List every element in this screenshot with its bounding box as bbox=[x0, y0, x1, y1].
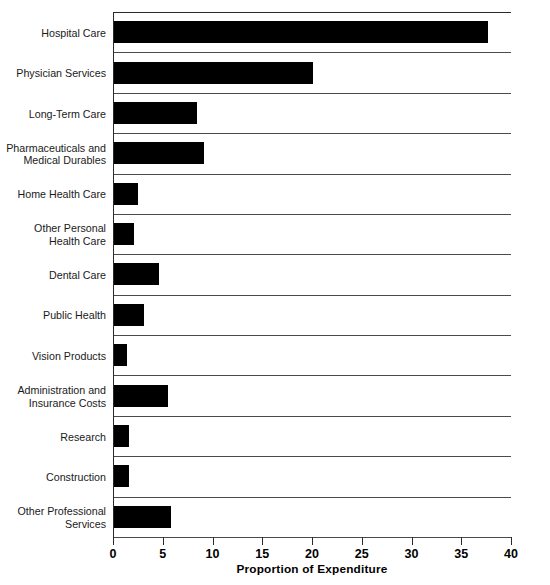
bar bbox=[114, 183, 138, 205]
category-label: Research bbox=[0, 417, 106, 457]
bar bbox=[114, 102, 197, 124]
category-label: Home Health Care bbox=[0, 175, 106, 215]
x-axis-tick bbox=[412, 537, 413, 545]
category-label: Physician Services bbox=[0, 53, 106, 93]
bar bbox=[114, 425, 129, 447]
x-axis-tick bbox=[262, 537, 263, 545]
x-axis-tick-label: 40 bbox=[504, 547, 518, 561]
bar bbox=[114, 344, 127, 366]
x-axis-tick-label: 0 bbox=[110, 547, 117, 561]
category-label: Vision Products bbox=[0, 336, 106, 376]
chart-band: Home Health Care bbox=[114, 175, 511, 215]
chart-band: Other Professional Services bbox=[114, 498, 511, 538]
bar bbox=[114, 263, 159, 285]
category-label: Dental Care bbox=[0, 255, 106, 295]
x-axis-tick-label: 30 bbox=[405, 547, 419, 561]
chart-band: Long-Term Care bbox=[114, 94, 511, 134]
chart-band: Pharmaceuticals and Medical Durables bbox=[114, 134, 511, 174]
bar bbox=[114, 506, 171, 528]
category-label: Construction bbox=[0, 457, 106, 497]
plot-area: Hospital CarePhysician ServicesLong-Term… bbox=[113, 12, 511, 537]
x-axis-tick bbox=[362, 537, 363, 545]
x-axis-tick-label: 35 bbox=[454, 547, 468, 561]
category-label: Hospital Care bbox=[0, 13, 106, 53]
category-label: Public Health bbox=[0, 296, 106, 336]
chart-band: Administration and Insurance Costs bbox=[114, 376, 511, 416]
bar bbox=[114, 304, 144, 326]
bar bbox=[114, 465, 129, 487]
bar-chart-figure: Hospital CarePhysician ServicesLong-Term… bbox=[0, 0, 550, 585]
x-axis-tick bbox=[163, 537, 164, 545]
category-label: Administration and Insurance Costs bbox=[0, 376, 106, 416]
bar bbox=[114, 223, 134, 245]
x-axis-tick-label: 25 bbox=[355, 547, 369, 561]
bar bbox=[114, 142, 204, 164]
chart-band: Construction bbox=[114, 457, 511, 497]
bar bbox=[114, 21, 488, 43]
x-axis-tick bbox=[213, 537, 214, 545]
bar bbox=[114, 385, 168, 407]
x-axis-tick-label: 5 bbox=[159, 547, 166, 561]
x-axis-tick-label: 20 bbox=[305, 547, 319, 561]
x-axis-tick bbox=[511, 537, 512, 545]
bar bbox=[114, 62, 313, 84]
chart-band: Public Health bbox=[114, 296, 511, 336]
x-axis: 0510152025303540 bbox=[113, 537, 511, 538]
x-axis-tick bbox=[312, 537, 313, 545]
chart-band: Research bbox=[114, 417, 511, 457]
category-label: Long-Term Care bbox=[0, 94, 106, 134]
chart-band: Physician Services bbox=[114, 53, 511, 93]
x-axis-title: Proportion of Expenditure bbox=[113, 562, 511, 576]
category-label: Other Professional Services bbox=[0, 498, 106, 538]
chart-band: Vision Products bbox=[114, 336, 511, 376]
chart-band: Hospital Care bbox=[114, 13, 511, 53]
chart-band: Dental Care bbox=[114, 255, 511, 295]
x-axis-tick bbox=[461, 537, 462, 545]
x-axis-tick-label: 15 bbox=[255, 547, 269, 561]
category-label: Pharmaceuticals and Medical Durables bbox=[0, 134, 106, 174]
category-label: Other Personal Health Care bbox=[0, 215, 106, 255]
chart-band: Other Personal Health Care bbox=[114, 215, 511, 255]
x-axis-tick-label: 10 bbox=[206, 547, 220, 561]
x-axis-tick bbox=[113, 537, 114, 545]
